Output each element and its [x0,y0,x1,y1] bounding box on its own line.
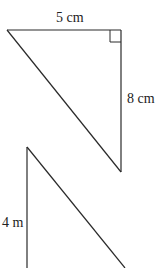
right-triangle-2 [27,147,125,268]
right-triangle-1 [7,30,121,172]
geometry-diagram [0,0,157,268]
label-4m: 4 m [2,216,23,230]
label-8cm: 8 cm [127,92,155,106]
triangle-2-hypotenuse [27,147,125,268]
label-5cm: 5 cm [56,11,84,25]
right-angle-marker-icon [110,30,121,42]
triangle-1-hypotenuse [7,30,121,172]
